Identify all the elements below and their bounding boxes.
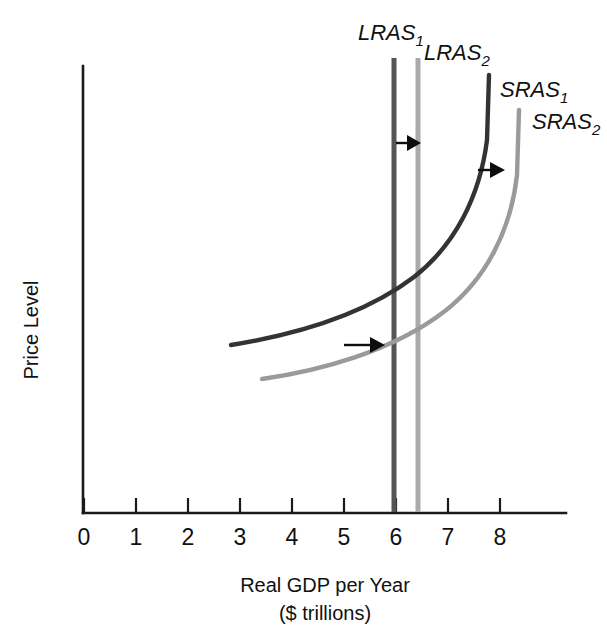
x-axis-units-label: ($ trillions) xyxy=(279,602,371,624)
x-tick-label: 8 xyxy=(494,524,507,550)
sras1-label-subscript: 1 xyxy=(560,89,568,106)
sras2-curve xyxy=(262,110,519,379)
x-tick-label: 6 xyxy=(390,524,403,550)
x-axis-tick-labels: 0 1 2 3 4 5 6 7 8 xyxy=(78,524,507,550)
x-tick-label: 0 xyxy=(78,524,91,550)
lras1-label-text: LRAS xyxy=(358,20,416,45)
chart-canvas: 0 1 2 3 4 5 6 7 8 Real GDP per Year ($ t… xyxy=(0,0,607,633)
sras2-label-subscript: 2 xyxy=(591,121,601,138)
y-axis-title: Price Level xyxy=(20,281,42,380)
aggregate-supply-chart: 0 1 2 3 4 5 6 7 8 Real GDP per Year ($ t… xyxy=(0,0,607,633)
lras2-label-subscript: 2 xyxy=(480,52,490,69)
sras1-label-text: SRAS xyxy=(500,77,560,102)
lras1-label-subscript: 1 xyxy=(415,32,423,49)
x-tick-label: 7 xyxy=(442,524,455,550)
sras2-label-text: SRAS xyxy=(532,109,592,134)
sras2-label: SRAS2 xyxy=(532,109,601,138)
axes-group xyxy=(83,66,566,513)
lras2-label: LRAS2 xyxy=(424,40,490,69)
x-tick-label: 3 xyxy=(234,524,247,550)
x-tick-label: 5 xyxy=(338,524,351,550)
arrow-head-icon xyxy=(490,162,505,178)
x-tick-label: 1 xyxy=(130,524,143,550)
x-tick-label: 4 xyxy=(286,524,299,550)
sras1-label: SRAS1 xyxy=(500,77,568,106)
lras1-label: LRAS1 xyxy=(358,20,424,49)
x-axis-ticks xyxy=(84,498,500,513)
x-axis-title: Real GDP per Year xyxy=(240,574,410,596)
x-tick-label: 2 xyxy=(182,524,195,550)
lras2-label-text: LRAS xyxy=(424,40,482,65)
